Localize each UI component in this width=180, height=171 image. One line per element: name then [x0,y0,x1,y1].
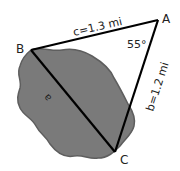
vertex-b-label: B [16,42,24,56]
angle-a-label: 55° [127,38,147,51]
vertex-c-label: C [120,153,128,167]
vertex-a-label: A [162,12,171,26]
side-b-label: b=1.2 mi [143,60,171,112]
triangle-diagram: A B C c=1.3 mi 55° b=1.2 mi a [0,0,180,171]
